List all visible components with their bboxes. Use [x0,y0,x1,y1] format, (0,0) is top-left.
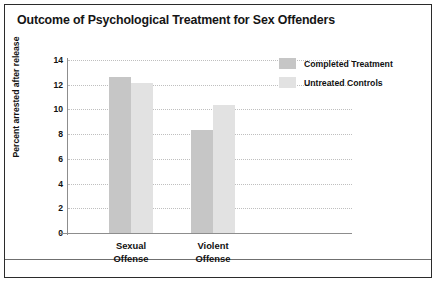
legend-swatch-completed-treatment [279,58,296,69]
y-axis-tick-label: 14 [35,55,63,65]
x-axis-category-line: Offense [86,253,176,266]
chart-legend: Completed TreatmentUntreated Controls [279,55,393,93]
y-axis-tick-label: 4 [35,179,63,189]
x-axis-category-label: SexualOffense [86,240,176,265]
x-axis-category-line: Sexual [86,240,176,253]
bar [131,83,153,233]
legend-item: Completed Treatment [279,55,393,72]
plot-area [68,60,272,233]
bar [191,130,213,233]
y-axis-tick-label: 6 [35,154,63,164]
y-axis-tick-label: 0 [35,228,63,238]
bar [109,77,131,233]
legend-item-label: Completed Treatment [304,59,393,69]
legend-swatch-untreated-controls [279,77,296,88]
bar [213,105,235,234]
y-axis-title: Percent arrested after release [11,17,21,177]
legend-item-label: Untreated Controls [304,78,383,88]
y-axis-tick-label: 10 [35,104,63,114]
x-axis-category-line: Violent [168,240,258,253]
y-axis-tick-label: 12 [35,80,63,90]
x-axis-category-line: Offense [168,253,258,266]
x-axis-line [60,233,352,234]
x-axis-category-label: ViolentOffense [168,240,258,265]
y-axis-tick-labels: 02468101214 [33,60,63,233]
figure-container: Outcome of Psychological Treatment for S… [0,0,436,282]
legend-item: Untreated Controls [279,74,393,91]
y-axis-tick-label: 2 [35,203,63,213]
chart-title: Outcome of Psychological Treatment for S… [17,13,417,27]
y-axis-tick-label: 8 [35,129,63,139]
